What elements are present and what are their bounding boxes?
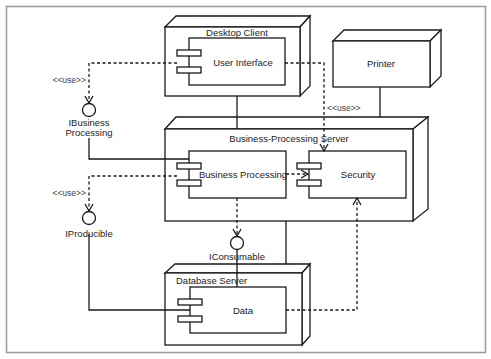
- stereotype-use-security: <<use>>: [327, 103, 361, 113]
- component-port-icon: [178, 299, 202, 305]
- stereotype-use-iproducible: <<use>>: [52, 188, 86, 198]
- label-iproducible: IProducible: [65, 228, 113, 239]
- label-iconsumable: IConsumable: [209, 251, 265, 262]
- label-printer: Printer: [367, 58, 395, 69]
- stereotype-use-ibusiness: <<use>>: [52, 75, 86, 85]
- label-desktop-client: Desktop Client: [206, 27, 268, 38]
- component-port-icon: [297, 163, 321, 169]
- interface-ibusiness-icon[interactable]: [83, 104, 96, 117]
- component-port-icon: [177, 163, 201, 169]
- label-database-server: Database Server: [176, 275, 247, 286]
- component-port-icon: [177, 67, 201, 73]
- component-port-icon: [178, 316, 202, 322]
- label-user-interface: User Interface: [213, 57, 273, 68]
- component-port-icon: [177, 50, 201, 56]
- label-business-processing: Business Processing: [199, 169, 287, 180]
- component-port-icon: [297, 180, 321, 186]
- interface-iproducible-icon[interactable]: [83, 212, 96, 225]
- label-bp-server: Business-Processing Server: [229, 133, 348, 144]
- component-port-icon: [177, 180, 201, 186]
- label-data: Data: [233, 305, 254, 316]
- deployment-diagram: Desktop Client User Interface Printer Bu…: [0, 0, 491, 359]
- label-security: Security: [341, 169, 376, 180]
- label-ibusiness-line2: Processing: [66, 127, 113, 138]
- interface-iconsumable-icon[interactable]: [231, 237, 244, 250]
